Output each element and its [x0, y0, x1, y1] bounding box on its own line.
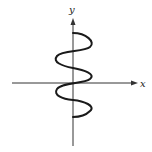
sine-curve: [56, 33, 92, 117]
y-axis-arrow-icon: [71, 18, 76, 25]
x-axis-arrow-icon: [131, 81, 138, 86]
diagram-canvas: y x: [0, 0, 152, 152]
x-axis-label: x: [140, 78, 146, 89]
y-axis-label: y: [68, 4, 75, 15]
y-axis: [71, 18, 76, 146]
